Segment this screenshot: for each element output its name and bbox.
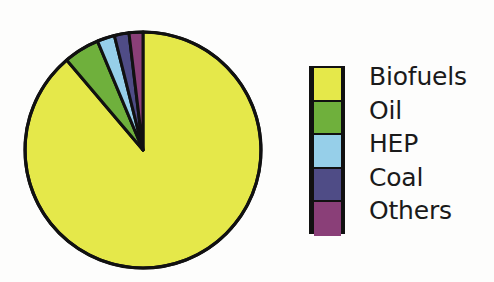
legend-swatch-color-hep	[314, 135, 341, 167]
pie-chart-svg	[0, 0, 290, 282]
pie-chart-plot-area	[0, 0, 290, 282]
legend: Biofuels Oil HEP Coal Others	[309, 66, 484, 236]
legend-swatch-color-oil	[314, 102, 341, 134]
legend-swatch-color-biofuels	[314, 68, 341, 100]
legend-label-column: Biofuels Oil HEP Coal Others	[369, 60, 489, 228]
legend-swatch-color-coal	[314, 169, 341, 201]
pie-chart-figure: Biofuels Oil HEP Coal Others	[0, 0, 494, 282]
legend-swatch-others[interactable]	[311, 202, 343, 236]
legend-swatch-oil[interactable]	[311, 102, 343, 136]
legend-label-hep: HEP	[369, 127, 489, 161]
legend-swatch-color-others	[314, 202, 341, 236]
legend-swatch-biofuels[interactable]	[311, 68, 343, 102]
legend-label-coal: Coal	[369, 161, 489, 195]
legend-label-oil: Oil	[369, 94, 489, 128]
legend-swatch-coal[interactable]	[311, 169, 343, 203]
legend-label-biofuels: Biofuels	[369, 60, 489, 94]
legend-label-others: Others	[369, 194, 489, 228]
legend-swatch-hep[interactable]	[311, 135, 343, 169]
legend-swatch-column	[309, 66, 345, 234]
